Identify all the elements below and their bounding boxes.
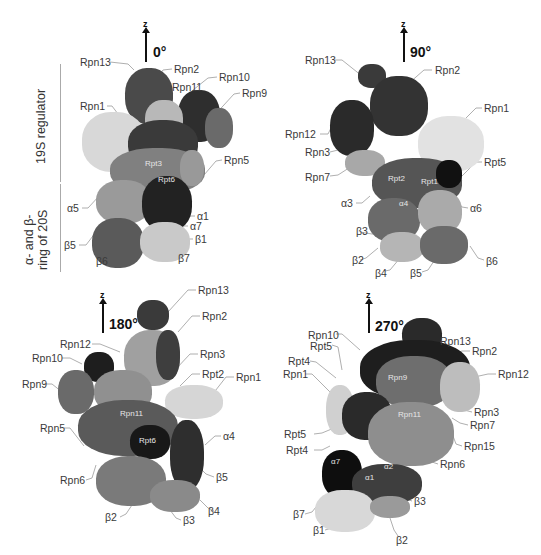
label-rpn6: Rpn6: [60, 475, 85, 486]
label-beta7: β7: [178, 253, 190, 264]
label-20s-rings: α- and β- ring of 20S: [22, 210, 51, 270]
label-rpn13: Rpn13: [80, 57, 111, 68]
label-beta3: β3: [183, 515, 195, 526]
label-rpn5: Rpn5: [40, 423, 65, 434]
label-20s-line2: ring of 20S: [36, 210, 50, 270]
inner-label-alpha2: α2: [384, 463, 393, 471]
label-rpn10: Rpn10: [219, 72, 250, 83]
inner-label-alpha7: α7: [331, 458, 340, 466]
label-beta6: β6: [96, 256, 108, 267]
label-20s-line1: α- and β-: [22, 215, 36, 266]
z-axis-label: z: [143, 19, 148, 29]
inner-label-rpt3: Rpt3: [145, 160, 162, 168]
label-rpn3: Rpn3: [474, 407, 499, 418]
label-rpn2: Rpn2: [174, 64, 199, 75]
label-rpn2: Rpn2: [472, 346, 497, 357]
z-axis-label: z: [401, 19, 406, 29]
label-beta5: β5: [410, 268, 422, 279]
inner-label-rpt6: Rpt6: [158, 176, 175, 184]
label-rpt5: Rpt5: [484, 157, 506, 168]
label-rpn5: Rpn5: [224, 155, 249, 166]
z-axis-label: z: [100, 290, 105, 300]
rotation-angle: 90°: [410, 44, 431, 60]
inner-label-rpn9: Rpn9: [388, 374, 407, 382]
label-beta2: β2: [352, 255, 364, 266]
label-rpn2: Rpn2: [202, 311, 227, 322]
label-rpt4-top: Rpt4: [288, 356, 310, 367]
label-alpha6: α6: [470, 203, 482, 214]
label-beta4: β4: [375, 268, 387, 279]
label-alpha7: α7: [190, 221, 202, 232]
label-rpn7: Rpn7: [305, 172, 330, 183]
brace-20s: [60, 184, 61, 272]
inner-label-rpt1: Rpt1: [421, 178, 438, 186]
label-rpn11: Rpn11: [172, 82, 202, 93]
inner-label-rpt2: Rpt2: [388, 175, 405, 183]
inner-label-rpn11: Rpn11: [120, 410, 143, 418]
label-rpn7: Rpn7: [470, 420, 495, 431]
label-rpn13: Rpn13: [305, 55, 336, 66]
label-rpn6: Rpn6: [440, 459, 465, 470]
label-beta7: β7: [293, 509, 305, 520]
label-beta5: β5: [64, 240, 76, 251]
label-beta3: β3: [414, 496, 426, 507]
label-rpn13: Rpn13: [198, 285, 229, 296]
label-rpn13: Rpn13: [440, 336, 471, 347]
label-rpn1: Rpn1: [484, 103, 509, 114]
z-axis-arrow: [102, 303, 104, 333]
label-beta2: β2: [105, 512, 117, 523]
z-axis-label: z: [366, 290, 371, 300]
label-rpt5-top: Rpt5: [310, 341, 332, 352]
label-rpn3: Rpn3: [305, 147, 330, 158]
label-rpn12: Rpn12: [285, 129, 316, 140]
label-rpn1: Rpn1: [283, 369, 308, 380]
label-rpn2: Rpn2: [435, 65, 460, 76]
brace-19s: [60, 64, 61, 182]
label-19s-regulator: 19S regulator: [34, 89, 48, 164]
label-beta6: β6: [486, 256, 498, 267]
label-rpn3: Rpn3: [200, 349, 225, 360]
label-rpn9: Rpn9: [242, 88, 267, 99]
label-beta2: β2: [396, 535, 408, 546]
label-alpha5: α5: [67, 203, 79, 214]
label-rpn1: Rpn1: [80, 101, 105, 112]
label-rpt4-bottom: Rpt4: [286, 445, 308, 456]
label-rpt2: Rpt2: [202, 369, 224, 380]
z-axis-arrow: [145, 32, 147, 62]
label-beta3: β3: [356, 226, 368, 237]
inner-label-rpt6: Rpt6: [139, 437, 156, 445]
label-beta1: β1: [313, 525, 325, 536]
inner-label-alpha4: α4: [399, 200, 408, 208]
label-alpha4: α4: [223, 431, 235, 442]
label-beta4: β4: [208, 506, 220, 517]
rotation-angle: 270°: [375, 318, 404, 334]
label-rpn9: Rpn9: [22, 379, 47, 390]
label-rpn12: Rpn12: [498, 369, 529, 380]
label-beta1: β1: [195, 234, 207, 245]
inner-label-rpn11: Rpn11: [398, 411, 421, 419]
label-rpn10: Rpn10: [32, 353, 63, 364]
label-rpt5-bottom: Rpt5: [284, 429, 306, 440]
inner-label-alpha1: α1: [365, 474, 374, 482]
leader-lines: [0, 0, 541, 555]
label-rpn10: Rpn10: [308, 330, 339, 341]
label-rpn12: Rpn12: [60, 339, 91, 350]
label-rpn15: Rpn15: [464, 441, 495, 452]
z-axis-arrow: [403, 32, 405, 62]
label-alpha3: α3: [341, 198, 353, 209]
rotation-angle: 0°: [153, 44, 166, 60]
rotation-angle: 180°: [109, 316, 138, 332]
label-rpn1: Rpn1: [236, 372, 261, 383]
label-beta5: β5: [216, 472, 228, 483]
z-axis-arrow: [368, 303, 370, 333]
